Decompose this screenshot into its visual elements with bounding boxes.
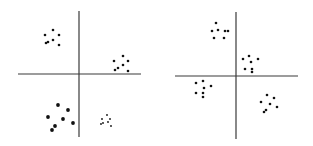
data-point xyxy=(44,34,47,37)
data-point xyxy=(110,125,112,127)
data-point xyxy=(251,68,254,71)
data-point xyxy=(117,67,120,70)
data-point xyxy=(109,118,111,120)
data-point xyxy=(66,108,70,112)
data-point xyxy=(61,117,65,121)
data-point xyxy=(195,92,198,95)
data-point xyxy=(47,41,50,44)
data-point xyxy=(260,101,263,104)
right-panel-cluster-bottom-right xyxy=(260,94,279,114)
data-point xyxy=(52,29,55,32)
data-point xyxy=(217,29,220,32)
data-point xyxy=(265,109,268,112)
data-point xyxy=(211,30,214,33)
left-panel-cluster-top-left xyxy=(44,29,61,47)
data-point xyxy=(53,124,57,128)
data-point xyxy=(263,111,266,114)
data-point xyxy=(202,80,205,83)
data-point xyxy=(71,121,75,125)
data-point xyxy=(46,115,50,119)
data-point xyxy=(102,122,104,124)
data-point xyxy=(215,22,218,25)
left-panel-cluster-top-right xyxy=(113,55,130,73)
right-panel-cluster-top-right xyxy=(242,55,260,74)
data-point xyxy=(213,37,216,40)
data-point xyxy=(210,85,213,88)
data-point xyxy=(107,121,109,123)
data-point xyxy=(227,30,230,33)
data-point xyxy=(273,97,276,100)
data-point xyxy=(251,71,254,74)
data-point xyxy=(114,69,117,72)
scatter-diagram xyxy=(0,0,313,146)
data-point xyxy=(257,58,260,61)
data-point xyxy=(203,87,206,90)
data-point xyxy=(58,34,61,37)
data-point xyxy=(127,60,130,63)
right-panel-cluster-bottom-left xyxy=(195,80,213,99)
data-point xyxy=(202,96,205,99)
data-point xyxy=(202,92,205,95)
data-point xyxy=(100,123,102,125)
data-point xyxy=(248,55,251,58)
data-point xyxy=(224,30,227,33)
data-point xyxy=(223,37,226,40)
data-point xyxy=(269,103,272,106)
right-panel-cluster-top-left xyxy=(211,22,230,40)
data-point xyxy=(106,114,108,116)
left-panel-cluster-bottom-left xyxy=(46,103,75,132)
left-panel xyxy=(18,11,141,137)
data-point xyxy=(56,103,60,107)
data-point xyxy=(101,118,103,120)
data-point xyxy=(52,39,55,42)
data-point xyxy=(276,106,279,109)
data-point xyxy=(266,94,269,97)
data-point xyxy=(250,61,253,64)
right-panel xyxy=(175,12,298,139)
data-point xyxy=(242,58,245,61)
data-point xyxy=(122,64,125,67)
data-point xyxy=(244,68,247,71)
data-point xyxy=(58,44,61,47)
left-panel-cluster-bottom-right xyxy=(100,114,112,127)
data-point xyxy=(195,82,198,85)
data-point xyxy=(122,55,125,58)
data-point xyxy=(50,128,54,132)
data-point xyxy=(127,70,130,73)
data-point xyxy=(113,60,116,63)
left-panel-points xyxy=(44,29,130,132)
